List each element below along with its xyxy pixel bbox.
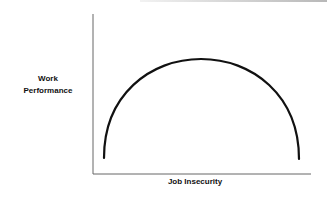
y-axis-label: Work Performance	[8, 73, 88, 97]
inverted-u-curve	[104, 59, 299, 159]
x-axis-label: Job Insecurity	[150, 177, 240, 186]
chart-plot	[0, 0, 327, 201]
y-axis-label-line2: Performance	[8, 85, 88, 97]
y-axis-label-line1: Work	[8, 73, 88, 85]
